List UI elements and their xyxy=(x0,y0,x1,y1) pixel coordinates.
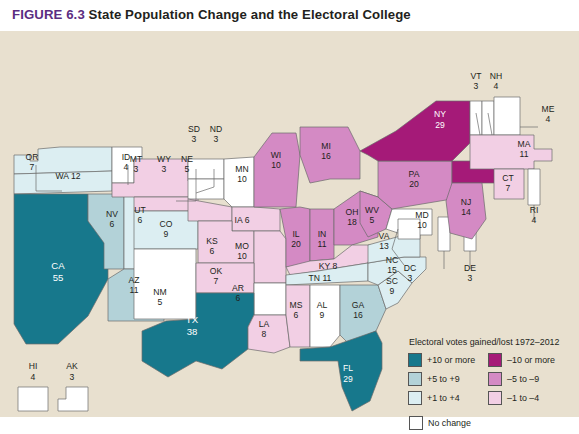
label-SC-code: SC xyxy=(386,276,398,286)
state-VT[interactable] xyxy=(470,101,482,135)
legend-swatch-loss-5to9 xyxy=(488,372,502,386)
legend-swatch-gain-5to9 xyxy=(408,372,422,386)
label-LA-votes: 8 xyxy=(262,329,267,339)
label-PA-code: PA xyxy=(409,169,420,179)
label-IL-votes: 20 xyxy=(291,239,301,249)
state-ME[interactable] xyxy=(494,97,520,135)
label-TX-votes: 38 xyxy=(187,326,198,337)
state-GA[interactable] xyxy=(340,285,386,343)
state-AK-box[interactable] xyxy=(58,387,88,411)
state-RI-box[interactable] xyxy=(528,169,540,205)
label-WA: WA 12 xyxy=(56,171,81,181)
label-UT-votes: 6 xyxy=(138,215,143,225)
label-ME-votes: 4 xyxy=(546,114,551,124)
state-SD[interactable] xyxy=(188,179,224,199)
state-AR[interactable] xyxy=(254,283,286,315)
legend-item-loss-1to4[interactable]: –1 to –4 xyxy=(488,391,555,405)
label-MD-votes: 10 xyxy=(417,220,427,230)
legend-label-gain-10plus: +10 or more xyxy=(427,355,475,365)
label-DE-votes: 3 xyxy=(468,273,473,283)
state-NM[interactable] xyxy=(134,249,196,319)
label-NC-code: NC xyxy=(386,255,398,265)
label-FL-votes: 29 xyxy=(343,374,353,384)
label-SC-votes: 9 xyxy=(390,286,395,296)
legend-label-gain-1to4: +1 to +4 xyxy=(427,393,460,403)
label-WV-code: WV xyxy=(365,205,379,215)
label-WY-votes: 3 xyxy=(162,164,167,174)
label-OR-code: OR xyxy=(26,152,39,162)
figure-title: State Population Change and the Electora… xyxy=(89,7,411,22)
state-NH[interactable] xyxy=(482,101,494,135)
label-IL-code: IL xyxy=(292,229,299,239)
label-AZ-votes: 11 xyxy=(130,285,139,295)
label-DC-code: DC xyxy=(404,263,416,273)
label-MI-code: MI xyxy=(321,141,331,151)
label-NM-code: NM xyxy=(153,287,166,297)
label-AK-votes: 3 xyxy=(70,372,75,382)
legend-item-gain-10plus[interactable]: +10 or more xyxy=(408,353,475,367)
label-DC-votes: 3 xyxy=(408,273,413,283)
legend-item-gain-5to9[interactable]: +5 to +9 xyxy=(408,372,475,386)
state-ND[interactable] xyxy=(188,159,224,179)
label-VA-votes: 13 xyxy=(379,241,389,251)
legend-item-gain-1to4[interactable]: +1 to +4 xyxy=(408,391,475,405)
figure-title-bar: FIGURE 6.3 State Population Change and t… xyxy=(0,0,579,32)
legend-item-nochange[interactable]: No change xyxy=(409,416,574,430)
label-MA-votes: 11 xyxy=(520,149,529,159)
label-NH-code: NH xyxy=(490,71,502,81)
label-CA-code: CA xyxy=(51,260,65,271)
label-AR-votes: 6 xyxy=(236,293,241,303)
label-SD-code: SD xyxy=(188,124,200,134)
legend-item-loss-10plus[interactable]: –10 or more xyxy=(488,353,555,367)
label-CO-code: CO xyxy=(160,219,173,229)
label-NH-votes: 4 xyxy=(494,81,499,91)
state-MA[interactable] xyxy=(470,135,552,169)
label-ME-code: ME xyxy=(542,104,555,114)
state-NE[interactable] xyxy=(188,199,232,221)
label-DE-code: DE xyxy=(464,263,476,273)
legend-item-loss-5to9[interactable]: –5 to –9 xyxy=(488,372,555,386)
label-VT-votes: 3 xyxy=(474,81,479,91)
label-RI-code: RI xyxy=(530,205,539,215)
state-MO[interactable] xyxy=(254,231,286,283)
label-NJ-code: NJ xyxy=(461,197,472,207)
legend-label-loss-10plus: –10 or more xyxy=(507,355,555,365)
label-MT-code: MT xyxy=(130,154,143,164)
state-NY[interactable] xyxy=(360,101,470,161)
label-MO-code: MO xyxy=(235,241,249,251)
label-WI-votes: 10 xyxy=(271,160,281,170)
label-NC-votes: 15 xyxy=(387,265,397,275)
label-IN-code: IN xyxy=(318,229,327,239)
label-IN-votes: 11 xyxy=(318,239,327,249)
label-MA-code: MA xyxy=(518,139,531,149)
legend-swatch-loss-10plus xyxy=(488,353,502,367)
label-NV-code: NV xyxy=(106,209,118,219)
state-HI-box[interactable] xyxy=(18,387,48,411)
legend-title: Electoral votes gained/lost 1972–2012 xyxy=(409,337,574,347)
page-title: FIGURE 6.3 State Population Change and t… xyxy=(12,7,411,22)
state-DC-box[interactable] xyxy=(438,217,450,251)
label-OH-votes: 18 xyxy=(347,217,357,227)
state-AL[interactable] xyxy=(310,285,340,347)
label-MS-code: MS xyxy=(290,300,303,310)
label-ND-votes: 3 xyxy=(214,134,219,144)
label-WV-votes: 5 xyxy=(370,215,375,225)
label-OK-votes: 7 xyxy=(214,276,219,286)
label-CA-votes: 55 xyxy=(53,272,64,283)
label-MN-votes: 10 xyxy=(237,174,247,184)
label-KS-votes: 6 xyxy=(210,246,215,256)
label-HI-code: HI xyxy=(29,361,38,371)
label-NV-votes: 6 xyxy=(110,219,115,229)
label-TX-code: TX xyxy=(186,314,199,325)
state-WI[interactable] xyxy=(254,133,300,207)
legend-swatch-loss-1to4 xyxy=(488,391,502,405)
label-AL-code: AL xyxy=(317,300,328,310)
state-OK[interactable] xyxy=(196,263,254,293)
label-PA-votes: 20 xyxy=(409,179,419,189)
label-MS-votes: 6 xyxy=(294,310,299,320)
label-NY-votes: 29 xyxy=(435,120,445,130)
label-NE-code: NE xyxy=(181,154,193,164)
label-WY-code: WY xyxy=(157,154,171,164)
label-MI-votes: 16 xyxy=(321,151,331,161)
map-legend: Electoral votes gained/lost 1972–2012 +1… xyxy=(408,337,574,434)
